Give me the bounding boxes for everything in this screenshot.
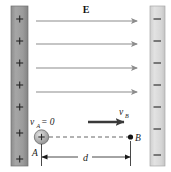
negative-plate-body (150, 6, 165, 166)
point-a-label: A (31, 148, 38, 158)
positive-plate (11, 6, 28, 166)
physics-diagram-figure: E A v A = 0 v B B (0, 0, 171, 172)
field-label-E: E (83, 4, 90, 15)
negative-plate (150, 6, 165, 166)
point-b-label: B (135, 133, 141, 143)
point-b-dot (128, 134, 133, 139)
initial-velocity-subscript: A (36, 123, 41, 129)
velocity-subscript: B (125, 113, 129, 119)
charged-particle (34, 130, 48, 144)
diagram-canvas: E A v A = 0 v B B (0, 0, 171, 172)
initial-velocity-value: = 0 (41, 117, 55, 127)
